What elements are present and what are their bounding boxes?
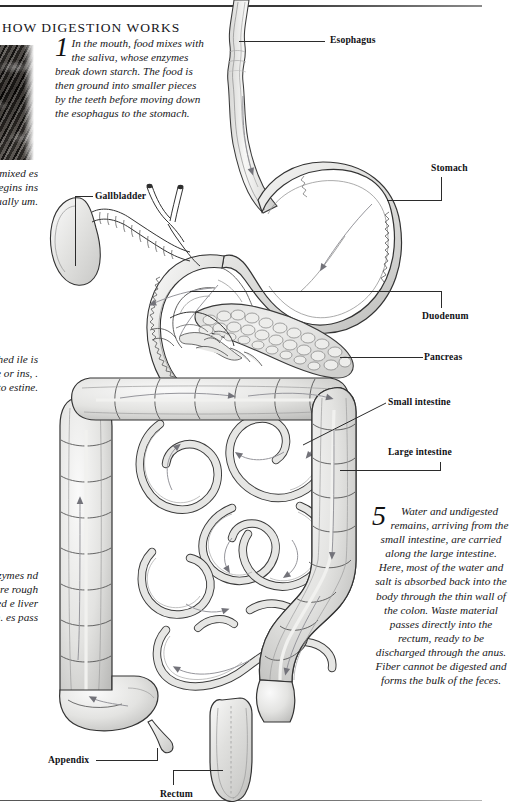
esophagus-organ (228, 0, 277, 213)
paragraph-4-small-intestine: igestion nall zymes nd uce the se are ro… (0, 568, 38, 624)
leader-rectum-v (173, 770, 174, 785)
leader-stomach-v (441, 177, 442, 201)
leader-appendix-h (96, 760, 158, 761)
rectum-organ (210, 698, 252, 801)
label-esophagus: Esophagus (330, 34, 376, 45)
paragraph-5-large-intestine: 5Water and undigested remains, arriving … (372, 504, 510, 687)
leader-appendix-v (157, 748, 158, 761)
pancreas-organ (150, 304, 353, 378)
leader-duodenum-h (190, 291, 442, 292)
leader-duodenum-v (441, 291, 442, 308)
paragraph-3-duodenum: l enters bathed ile is nd r. fats. se or… (0, 352, 38, 394)
paragraph-2-text: n omach. mixed es that n the egins ins a… (0, 167, 38, 207)
leader-large-intestine-h (340, 470, 441, 471)
label-stomach: Stomach (431, 162, 468, 173)
label-appendix: Appendix (48, 754, 89, 765)
dropcap-1: 1 (55, 36, 72, 58)
label-gallbladder: Gallbladder (95, 190, 146, 201)
paragraph-1-mouth: 1In the mouth, food mixes with the saliv… (55, 36, 207, 121)
leader-gallbladder-h (75, 196, 93, 197)
leader-large-intestine-v (440, 462, 441, 471)
leader-esophagus (239, 41, 325, 42)
label-small-intestine: Small intestine (388, 396, 451, 407)
leader-rectum-h (173, 770, 223, 771)
leader-pancreas (340, 357, 423, 358)
dropcap-5: 5 (372, 504, 389, 527)
label-large-intestine: Large intestine (388, 446, 452, 457)
flow-arrow-si-4 (225, 538, 232, 570)
paragraph-3-text: l enters bathed ile is nd r. fats. se or… (0, 353, 38, 393)
leader-stomach-h (387, 200, 442, 201)
paragraph-1-text: In the mouth, food mixes with the saliva… (55, 37, 204, 119)
paragraph-2-stomach: n omach. mixed es that n the egins ins a… (0, 166, 38, 208)
label-rectum: Rectum (160, 788, 193, 799)
appendix-organ (148, 720, 173, 753)
label-pancreas: Pancreas (424, 351, 462, 362)
leader-gallbladder-v (75, 196, 76, 266)
paragraph-4-text: igestion nall zymes nd uce the se are ro… (0, 569, 38, 623)
flow-arrow-si-5 (286, 540, 298, 576)
label-duodenum: Duodenum (422, 310, 469, 321)
paragraph-5-text: Water and undigested remains, arriving f… (375, 505, 508, 686)
